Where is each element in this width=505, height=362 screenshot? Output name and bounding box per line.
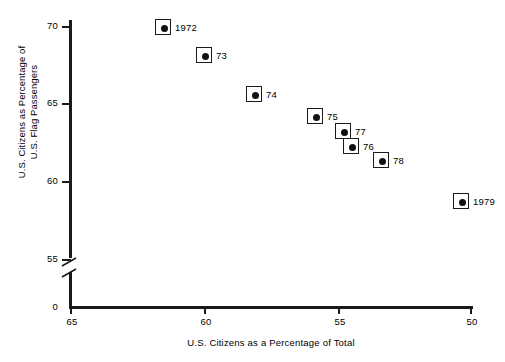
y-axis-title: U.S. Citizens as Percentage of U.S. Flag… [16, 37, 40, 187]
marker-dot [313, 114, 320, 121]
y-tick-60 [62, 181, 71, 183]
marker-dot [202, 53, 209, 60]
data-point-label: 73 [216, 50, 227, 61]
x-tick-65 [70, 306, 72, 314]
x-tick-label-55: 55 [320, 316, 360, 327]
x-axis-line [69, 306, 473, 309]
y-tick-label-70: 70 [18, 21, 58, 31]
x-tick-60 [204, 306, 206, 314]
data-point-label: 1972 [175, 22, 197, 33]
y-tick-55 [62, 259, 71, 261]
data-point-label: 74 [266, 89, 277, 100]
marker-dot [252, 92, 259, 99]
y-tick-65 [62, 103, 71, 105]
x-tick-55 [338, 306, 340, 314]
y-axis-line [69, 20, 72, 258]
marker-dot [349, 144, 356, 151]
data-point-label: 1979 [473, 196, 495, 207]
data-point-label: 77 [355, 126, 366, 137]
x-tick-label-60: 60 [186, 316, 226, 327]
y-tick-70 [62, 26, 71, 28]
marker-dot [459, 199, 466, 206]
x-tick-label-50: 50 [452, 316, 492, 327]
marker-dot [341, 129, 348, 136]
x-axis-title: U.S. Citizens as a Percentage of Total [69, 337, 473, 348]
data-point-label: 76 [363, 141, 374, 152]
x-tick-label-65: 65 [52, 316, 92, 327]
scatter-chart: 70 65 60 55 0 65 60 55 50 U.S. Citizens … [0, 0, 505, 362]
data-point-label: 78 [393, 155, 404, 166]
marker-dot [161, 25, 168, 32]
marker-dot [379, 158, 386, 165]
y-tick-label-0: 0 [18, 302, 58, 312]
x-tick-50 [470, 306, 472, 314]
data-point-label: 75 [327, 111, 338, 122]
y-tick-label-55: 55 [18, 254, 58, 264]
